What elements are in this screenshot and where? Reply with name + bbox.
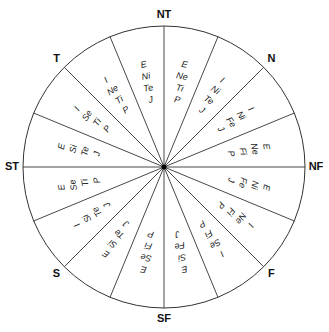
sector-letter: J [174,229,182,240]
sector-8: ESiFeJ [174,229,189,276]
sector-letter: Fi [143,240,153,251]
sector-16: ENiTeJ [140,59,155,106]
sector-letter: J [146,94,154,105]
sector-letter: E [180,264,189,275]
sector-12: ESeTiP [56,176,102,191]
sector-letter: P [91,176,102,184]
sector-13: ESiTeJ [56,142,102,158]
axis-label-n: N [268,52,276,64]
sector-letter: P [215,200,227,211]
sector-letter: Fe [174,240,186,252]
sector-letter: Ne [175,70,188,82]
sector-letter: E [139,264,148,275]
sector-letter: Ni [141,70,152,82]
sector-letter: Si [176,252,187,264]
sector-letter: I [246,105,256,113]
sector-letter: Te [79,146,91,157]
sector-letter: P [101,124,113,135]
sector-letter: J [226,176,237,184]
axis-label-nf: NF [309,160,324,172]
sector-letter: J [91,150,102,158]
sector-letter: Fe [237,177,249,189]
sector-10: ESiTeJ [100,218,132,259]
axis-label-sf: SF [157,312,171,324]
sector-letter: I [102,75,110,85]
axis-label-t: T [53,52,60,64]
sector-letter: P [226,150,237,158]
axis-label-s: S [53,267,60,279]
type-wheel-diagram: ENeTiPINiTeJINiFeJENeFiPENiFeJINeFiPISeF… [0,0,329,332]
sector-letter: J [121,218,132,230]
sector-letter: I [72,105,82,113]
sector-letter: I [218,75,226,85]
sector-letter: Ne [249,142,261,155]
sector-letter: E [140,59,149,70]
sector-letter: Fi [237,147,248,157]
center-point [162,165,167,170]
sector-letter: P [121,104,132,116]
sector-letter: Ti [175,82,185,93]
sector-letter: Se [67,179,79,192]
sector-4: ENeFiP [226,142,272,157]
sector-letter: E [56,183,67,192]
sector-letter: E [261,143,272,152]
sector-9: ESeFiP [139,229,155,275]
sector-letter: P [173,94,181,105]
axis-label-nt: NT [157,8,172,20]
axis-label-st: ST [5,160,19,172]
sector-letter: J [215,123,227,134]
sector-1: ENeTiP [173,59,189,105]
sector-letter: J [197,104,208,116]
sector-5: ENiFeJ [226,176,272,192]
sector-letter: E [261,183,272,192]
sector-letter: I [246,221,256,229]
sector-letter: P [197,218,208,230]
sector-letter: I [72,221,82,229]
axis-label-f: F [268,267,275,279]
sector-letter: Ni [249,180,261,191]
wheel-lines [23,26,305,308]
sector-letter: P [147,229,155,240]
sector-letter: E [100,248,111,260]
sector-letter: J [101,200,113,211]
sector-letter: Te [143,82,154,94]
sector-letter: E [180,59,189,70]
sector-letter: E [56,142,67,151]
sector-letter: Ti [79,177,90,187]
sector-letter: Si [67,143,79,154]
sector-letter: Se [140,252,153,264]
sector-letter: I [218,249,226,259]
